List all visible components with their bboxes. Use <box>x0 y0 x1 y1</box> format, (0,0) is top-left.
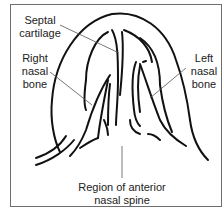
label-line: cartilage <box>17 27 63 40</box>
label-line: Right <box>17 52 53 65</box>
label-line: nasal spine <box>62 194 182 207</box>
label-line: bone <box>17 78 53 91</box>
label-septal-cartilage: Septal cartilage <box>17 14 63 40</box>
label-anterior-nasal-spine: Region of anterior nasal spine <box>62 181 182 207</box>
label-line: nasal <box>186 65 222 78</box>
outer-outline <box>52 13 190 120</box>
label-line: Region of anterior <box>62 181 182 194</box>
label-line: Left <box>186 52 222 65</box>
label-line: bone <box>186 78 222 91</box>
label-left-nasal-bone: Left nasal bone <box>186 52 222 91</box>
label-line: Septal <box>17 14 63 27</box>
label-line: nasal <box>17 65 53 78</box>
label-right-nasal-bone: Right nasal bone <box>17 52 53 91</box>
